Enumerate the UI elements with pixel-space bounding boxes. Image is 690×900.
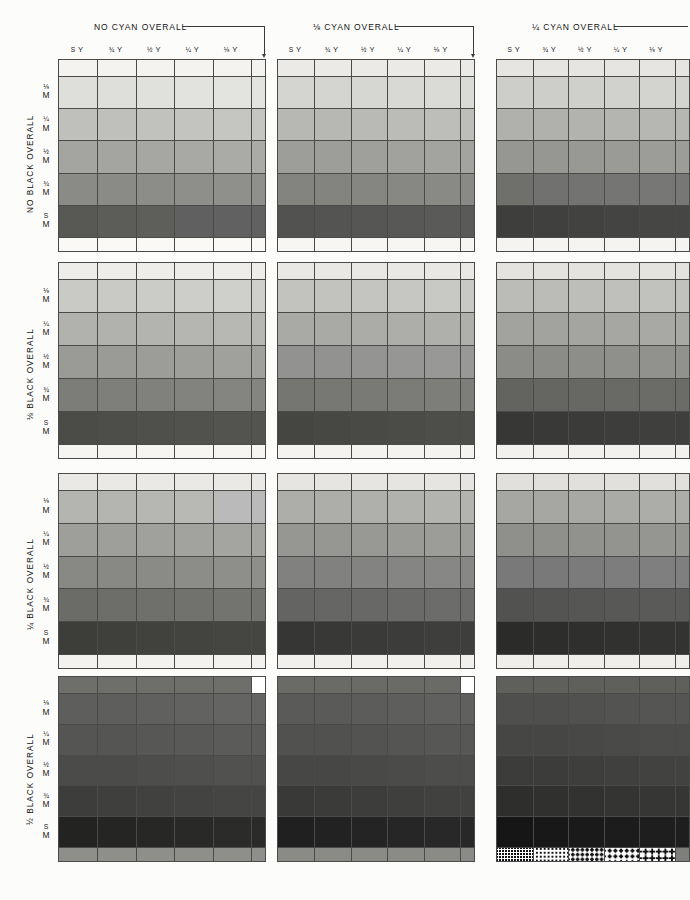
swatch-cell-k1-c2-r2-narrow xyxy=(675,345,690,378)
swatch-cell-k2-c1-r4-c3 xyxy=(387,621,423,654)
row-label-black-1-2-1: ¼M xyxy=(36,729,56,747)
row-label-black-1-2-4: SM xyxy=(36,822,56,840)
swatch-cell-k1-c2-r2-c1 xyxy=(533,345,569,378)
row-label-ink: M xyxy=(36,800,56,809)
swatch-cell-k3-c2-r4-c0 xyxy=(497,816,533,847)
swatch-cell-k1-c1-r3-c4 xyxy=(424,378,460,411)
swatch-cell-k2-c0-r2-c2 xyxy=(136,556,174,589)
swatch-cell-k3-c2-r2-c4 xyxy=(639,755,675,786)
swatch-cell-k3-c1-r1-c1 xyxy=(314,724,350,755)
swatch-block-k0-c2 xyxy=(496,59,690,252)
row-label-ink: M xyxy=(36,571,56,580)
swatch-hrule-k2-c1-1 xyxy=(278,523,474,524)
swatch-cell-k3-c2-r3-c3 xyxy=(604,785,640,816)
swatch-hrule-k3-c2-3 xyxy=(497,785,689,786)
swatch-cell-k2-c1-r1-c1 xyxy=(314,523,350,556)
swatch-cell-k0-c0-r3-c4 xyxy=(213,173,251,205)
swatch-cell-k3-c0-r3-c1 xyxy=(97,785,135,816)
swatch-hrule-k2-c0-3 xyxy=(59,588,265,589)
column-label-ink: Y xyxy=(331,45,339,54)
swatch-cell-k1-c1-r4-c1 xyxy=(314,411,350,444)
swatch-cell-k1-c1-r2-c2 xyxy=(351,345,387,378)
swatch-vrule-k0-c2-3 xyxy=(604,60,605,251)
swatch-cell-k2-c0-r3-c1 xyxy=(97,588,135,621)
swatch-cell-k2-c2-r3-c2 xyxy=(568,588,604,621)
swatch-cell-k3-c2-r3-c2 xyxy=(568,785,604,816)
swatch-hrule-k1-c2-4 xyxy=(497,411,689,412)
swatch-cell-k3-c1-r0-c0 xyxy=(278,693,314,724)
swatch-cell-k1-c2-r4-c2 xyxy=(568,411,604,444)
swatch-cell-k3-c0-r0-c3 xyxy=(174,693,212,724)
swatch-vrule-k1-c0-2 xyxy=(136,263,137,458)
swatch-cell-k2-c1-r2-c3 xyxy=(387,556,423,589)
swatch-cell-k1-c0-r4-c1 xyxy=(97,411,135,444)
swatch-hrule-k3-c2-0 xyxy=(497,693,689,694)
swatch-hrule-k0-c1-0 xyxy=(278,76,474,77)
swatch-cell-k2-c0-r4-narrow xyxy=(251,621,266,654)
swatch-cell-k3-c1-r3-c2 xyxy=(351,785,387,816)
swatch-cell-k3-c1-r0-narrow xyxy=(460,693,475,724)
swatch-cell-k0-c1-r2-c0 xyxy=(278,140,314,172)
swatch-vrule-k2-c1-4 xyxy=(424,474,425,668)
swatch-cell-k2-c1-r1-c4 xyxy=(424,523,460,556)
swatch-cell-k0-c0-r4-c4 xyxy=(213,205,251,237)
row-label-ink: M xyxy=(36,738,56,747)
swatch-cell-k2-c1-r0-c3 xyxy=(387,490,423,523)
swatch-cell-k1-c0-r0-narrow xyxy=(251,279,266,312)
swatch-vrule-k0-c1-4 xyxy=(424,60,425,251)
swatch-cell-k2-c0-r0-c2 xyxy=(136,490,174,523)
swatch-cell-k0-c0-r3-c2 xyxy=(136,173,174,205)
swatch-top-strip-k2-c0 xyxy=(59,474,266,490)
swatch-cell-k2-c2-r0-c2 xyxy=(568,490,604,523)
swatch-vrule-k1-c2-2 xyxy=(568,263,569,458)
swatch-cell-k2-c1-r4-narrow xyxy=(460,621,475,654)
swatch-cell-k0-c1-r4-c0 xyxy=(278,205,314,237)
row-label-ink: M xyxy=(36,295,56,304)
swatch-vrule-k2-c0-1 xyxy=(97,474,98,668)
swatch-cell-k1-c0-r3-c2 xyxy=(136,378,174,411)
swatch-hrule-k2-c0-2 xyxy=(59,556,265,557)
swatch-cell-k3-c1-r3-c1 xyxy=(314,785,350,816)
swatch-cell-k2-c1-r3-c4 xyxy=(424,588,460,621)
swatch-cell-k3-c2-r4-c1 xyxy=(533,816,569,847)
swatch-cell-k3-c2-r0-c4 xyxy=(639,693,675,724)
swatch-vrule-k2-c2-5 xyxy=(675,474,676,668)
swatch-cell-k0-c1-r1-c2 xyxy=(351,108,387,140)
swatch-cell-k2-c1-r1-c0 xyxy=(278,523,314,556)
swatch-vrule-k0-c0-5 xyxy=(251,60,252,251)
swatch-vrule-k0-c0-3 xyxy=(174,60,175,251)
swatch-cell-k1-c0-r1-c1 xyxy=(97,312,135,345)
swatch-vrule-k3-c1-2 xyxy=(351,677,352,861)
swatch-cell-k0-c1-r2-c4 xyxy=(424,140,460,172)
swatch-cell-k2-c2-r1-c2 xyxy=(568,523,604,556)
swatch-cell-k0-c1-r3-c2 xyxy=(351,173,387,205)
swatch-cell-k0-c1-r3-c4 xyxy=(424,173,460,205)
row-label-ink: M xyxy=(36,604,56,613)
swatch-cell-k1-c1-r3-narrow xyxy=(460,378,475,411)
swatch-cell-k1-c2-r1-narrow xyxy=(675,312,690,345)
row-label-ink: M xyxy=(36,91,56,100)
swatch-block-k3-c0 xyxy=(58,676,266,862)
swatch-top-strip-k3-c1 xyxy=(278,677,475,693)
swatch-cell-k2-c1-r2-c1 xyxy=(314,556,350,589)
swatch-cell-k3-c2-r4-c3 xyxy=(604,816,640,847)
swatch-cell-k0-c0-r0-c3 xyxy=(174,76,212,108)
row-band-title-black-1-8: ⅛ BLACK OVERALL xyxy=(26,328,35,420)
swatch-cell-k3-c2-r4-c2 xyxy=(568,816,604,847)
swatch-cell-k2-c1-r3-c3 xyxy=(387,588,423,621)
swatch-cell-k3-c2-r2-c0 xyxy=(497,755,533,786)
swatch-hrule-k1-c2-2 xyxy=(497,345,689,346)
swatch-hrule-k2-c0-5 xyxy=(59,654,265,655)
column-label-cyan-1-8-0: S Y xyxy=(277,45,313,54)
swatch-cell-k2-c2-r0-c4 xyxy=(639,490,675,523)
swatch-cell-k2-c0-r2-c4 xyxy=(213,556,251,589)
swatch-vrule-k2-c0-4 xyxy=(213,474,214,668)
swatch-cell-k0-c0-r3-c1 xyxy=(97,173,135,205)
swatch-cell-k0-c2-r3-c1 xyxy=(533,173,569,205)
swatch-cell-k2-c2-r1-c0 xyxy=(497,523,533,556)
swatch-vrule-k1-c1-5 xyxy=(460,263,461,458)
swatch-cell-k1-c0-r2-narrow xyxy=(251,345,266,378)
swatch-cell-k2-c0-r1-c1 xyxy=(97,523,135,556)
column-label-cyan-1-8-1: ¾ Y xyxy=(313,45,349,54)
swatch-top-strip-k2-c2 xyxy=(497,474,690,490)
